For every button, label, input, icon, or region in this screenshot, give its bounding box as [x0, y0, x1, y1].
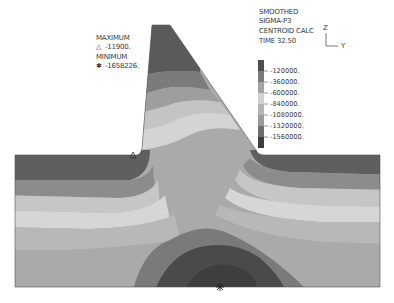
- header-line-4: TIME 32.50: [259, 37, 314, 45]
- axis-z-label: Z: [323, 24, 328, 32]
- legend-label-7: -1560000.: [270, 133, 304, 141]
- plot-header: SMOOTHED SIGMA-P3 CENTROID CALC TIME 32.…: [259, 8, 314, 46]
- legend-label-6: -1320000.: [270, 122, 304, 130]
- minimum-symbol-icon: ✱: [96, 62, 102, 70]
- stress-contours: [0, 0, 394, 303]
- legend-label-4: -840000.: [270, 100, 300, 108]
- header-line-1: SMOOTHED: [259, 8, 314, 16]
- header-line-3: CENTROID CALC: [259, 27, 314, 35]
- maximum-value: -11900.: [105, 43, 131, 51]
- contour-plot: [0, 0, 394, 303]
- legend-label-5: -1080000.: [270, 111, 304, 119]
- maximum-label: MAXIMUM: [96, 34, 130, 42]
- minimum-value: -1658226.: [105, 62, 139, 70]
- minimum-marker-icon: [216, 283, 224, 291]
- legend-label-3: -600000.: [270, 89, 300, 97]
- minimum-label: MINIMUM: [96, 53, 127, 61]
- maximum-symbol-icon: △: [96, 43, 101, 51]
- legend-label-1: -120000.: [270, 67, 300, 75]
- axis-y-label: Y: [341, 42, 345, 50]
- legend-label-2: -360000.: [270, 78, 300, 86]
- legend-colorbar: [258, 60, 268, 148]
- axis-triad: [326, 33, 338, 46]
- header-line-2: SIGMA-P3: [259, 17, 314, 25]
